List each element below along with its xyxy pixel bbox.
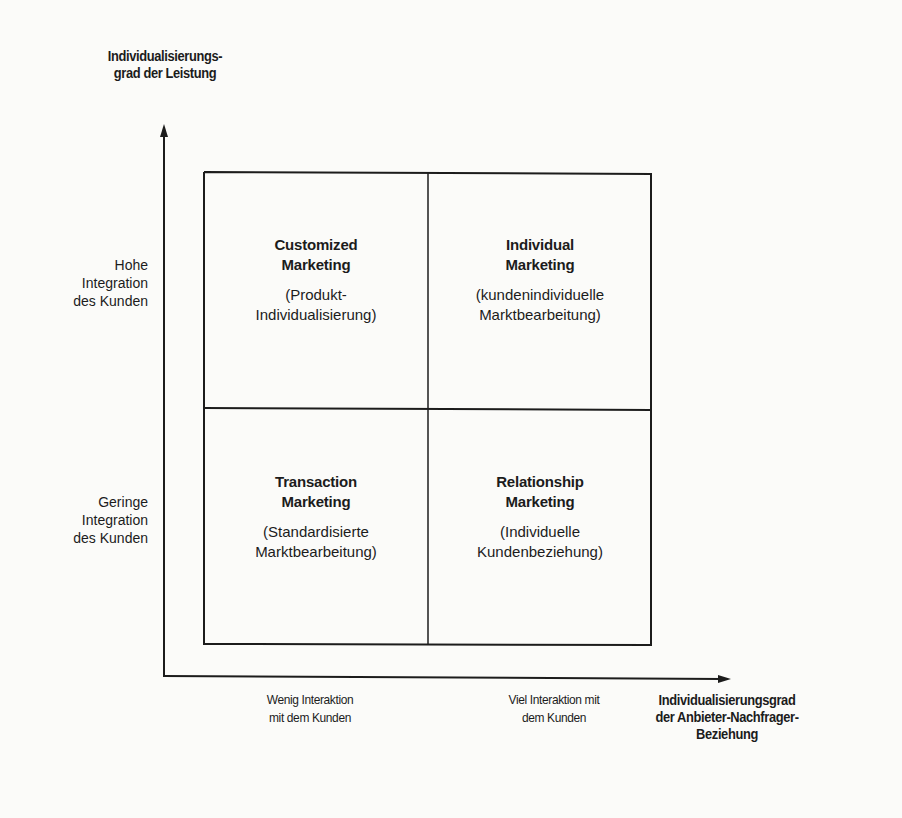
quadrant-title: Transaction Marketing — [205, 472, 427, 512]
y-axis-title: Individualisierungs- grad der Leistung — [78, 48, 253, 82]
title-line: Marketing — [205, 492, 427, 512]
title-line: Individual — [429, 235, 651, 255]
label-line: dem Kunden — [476, 709, 632, 727]
subtitle-line: (Individuelle — [429, 522, 651, 542]
label-line: mit dem Kunden — [232, 709, 388, 727]
label-line: Hohe — [8, 256, 148, 274]
y-level-low-label: Geringe Integration des Kunden — [8, 493, 148, 547]
y-axis-arrow — [160, 124, 168, 676]
x-level-low-label: Wenig Interaktion mit dem Kunden — [232, 691, 388, 727]
subtitle-line: Individualisierung) — [205, 305, 427, 325]
label-line: Viel Interaktion mit — [476, 691, 632, 709]
x-level-high-label: Viel Interaktion mit dem Kunden — [476, 691, 632, 727]
label-line: Integration — [8, 274, 148, 292]
label-line: des Kunden — [8, 529, 148, 547]
quadrant-subtitle: (Standardisierte Marktbearbeitung) — [205, 522, 427, 562]
quadrant-subtitle: (kundenindividuelle Marktbearbeitung) — [429, 285, 651, 325]
quadrant-title: Customized Marketing — [205, 235, 427, 275]
title-line: Relationship — [429, 472, 651, 492]
quadrant-customized-marketing: Customized Marketing (Produkt- Individua… — [205, 235, 427, 325]
subtitle-line: Marktbearbeitung) — [429, 305, 651, 325]
y-axis-title-line: Individualisierungs- — [78, 48, 253, 65]
x-axis-title-line: Beziehung — [640, 726, 815, 743]
subtitle-line: Marktbearbeitung) — [205, 542, 427, 562]
subtitle-line: (Produkt- — [205, 285, 427, 305]
label-line: Wenig Interaktion — [232, 691, 388, 709]
quadrant-transaction-marketing: Transaction Marketing (Standardisierte M… — [205, 472, 427, 562]
title-line: Transaction — [205, 472, 427, 492]
title-line: Marketing — [429, 255, 651, 275]
label-line: des Kunden — [8, 292, 148, 310]
x-axis-title-line: Individualisierungsgrad — [640, 692, 815, 709]
x-axis-title: Individualisierungsgrad der Anbieter-Nac… — [640, 692, 815, 743]
quadrant-relationship-marketing: Relationship Marketing (Individuelle Kun… — [429, 472, 651, 562]
title-line: Marketing — [429, 492, 651, 512]
quadrant-subtitle: (Individuelle Kundenbeziehung) — [429, 522, 651, 562]
quadrant-subtitle: (Produkt- Individualisierung) — [205, 285, 427, 325]
subtitle-line: (Standardisierte — [205, 522, 427, 542]
label-line: Geringe — [8, 493, 148, 511]
quadrant-individual-marketing: Individual Marketing (kundenindividuelle… — [429, 235, 651, 325]
y-level-high-label: Hohe Integration des Kunden — [8, 256, 148, 310]
x-axis-title-line: der Anbieter-Nachfrager- — [640, 709, 815, 726]
label-line: Integration — [8, 511, 148, 529]
quadrant-title: Individual Marketing — [429, 235, 651, 275]
quadrant-title: Relationship Marketing — [429, 472, 651, 512]
subtitle-line: (kundenindividuelle — [429, 285, 651, 305]
x-axis-arrow — [163, 675, 731, 683]
title-line: Marketing — [205, 255, 427, 275]
subtitle-line: Kundenbeziehung) — [429, 542, 651, 562]
marketing-matrix-diagram: Individualisierungs- grad der Leistung H… — [0, 0, 902, 818]
y-axis-title-line: grad der Leistung — [78, 65, 253, 82]
title-line: Customized — [205, 235, 427, 255]
